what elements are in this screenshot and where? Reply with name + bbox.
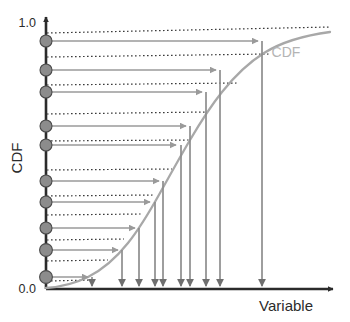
dotted-line <box>47 112 208 114</box>
labels-group: 1.0 0.0 CDF Variable <box>8 16 313 314</box>
cdf-inverse-transform-figure: CDF <box>0 0 350 322</box>
dotted-line <box>47 260 108 261</box>
sample-marker <box>40 64 52 76</box>
sample-marker <box>40 196 52 208</box>
dotted-line <box>47 214 141 215</box>
dotted-reference-lines <box>47 27 330 281</box>
dotted-line <box>47 169 172 170</box>
sample-marker <box>40 222 52 234</box>
dotted-line <box>47 280 92 281</box>
sample-marker <box>40 244 53 257</box>
sample-marker <box>40 120 52 132</box>
dotted-line <box>47 239 124 240</box>
cdf-curve-label: CDF <box>272 44 301 60</box>
sample-marker <box>40 35 52 47</box>
dotted-line <box>47 195 155 196</box>
plot-canvas: CDF <box>0 0 350 322</box>
horizontal-sampling-arrows <box>47 41 258 277</box>
y-axis-tick-label-bottom: 0.0 <box>19 282 36 296</box>
dotted-line <box>47 27 330 33</box>
dotted-line <box>47 83 238 85</box>
dotted-line <box>47 54 270 57</box>
sample-marker <box>40 139 52 151</box>
x-axis-label: Variable <box>259 297 313 314</box>
y-axis-label: CDF <box>8 143 25 174</box>
sample-marker <box>40 271 53 284</box>
dotted-line <box>47 140 190 141</box>
sample-marker <box>40 86 52 98</box>
y-axis-tick-label-top: 1.0 <box>19 16 36 30</box>
sample-marker <box>40 175 52 187</box>
